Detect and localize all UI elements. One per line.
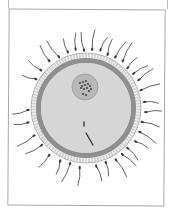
- nucleus: [72, 74, 98, 100]
- egg-cell-diagram: [0, 0, 175, 218]
